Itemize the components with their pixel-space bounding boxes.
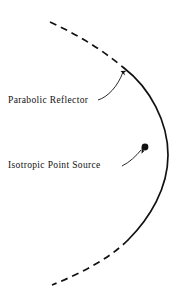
isotropic-point-source-label: Isotropic Point Source [8,160,101,170]
background [0,0,191,293]
isotropic-point-source-dot [142,144,149,151]
parabolic-reflector-label: Parabolic Reflector [8,95,89,105]
parabolic-reflector-diagram: Parabolic Reflector Isotropic Point Sour… [0,0,191,293]
figure-canvas: Parabolic Reflector Isotropic Point Sour… [0,0,191,293]
